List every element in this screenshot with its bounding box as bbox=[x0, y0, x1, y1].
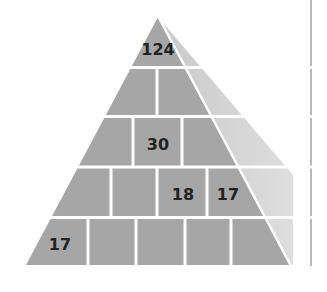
cell-r5-c1: 17 bbox=[49, 235, 71, 254]
cell-r1-c1: 124 bbox=[141, 40, 174, 59]
number-pyramid: 124 30 18 17 17 bbox=[0, 0, 327, 292]
cell-r4-c4: 17 bbox=[217, 185, 239, 204]
cell-r4-c3: 18 bbox=[172, 185, 194, 204]
cell-r3-c2: 30 bbox=[147, 135, 169, 154]
